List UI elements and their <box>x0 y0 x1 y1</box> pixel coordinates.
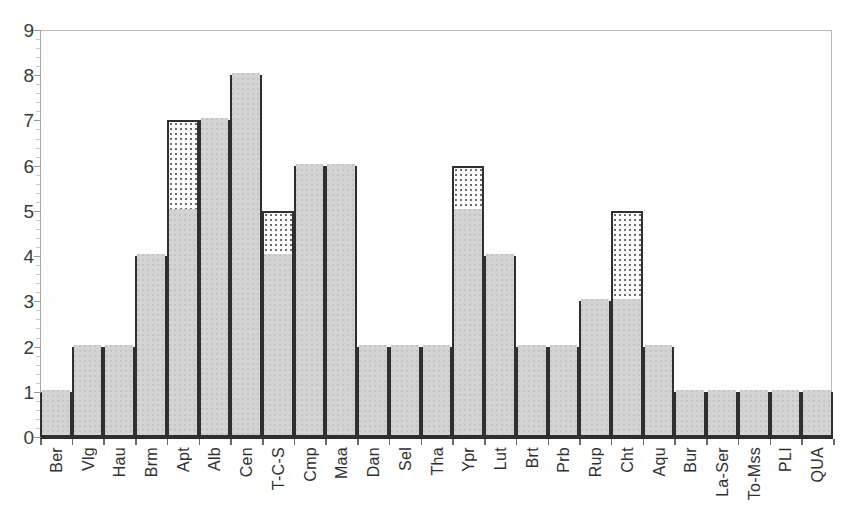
y-minor-tick <box>36 202 40 203</box>
bar-apt <box>167 120 199 437</box>
y-minor-tick <box>36 93 40 94</box>
y-minor-tick <box>36 220 40 221</box>
bar-segment-gray <box>232 73 260 435</box>
x-tick-label-cen: Cen <box>238 447 256 477</box>
bar-maa <box>325 166 357 437</box>
x-tick-mark <box>579 439 581 445</box>
y-minor-tick <box>36 238 40 239</box>
y-minor-tick <box>36 356 40 357</box>
bar-segment-dotted <box>454 168 482 213</box>
bar-segment-gray <box>296 164 324 435</box>
x-tick-label-bur: Bur <box>682 447 700 473</box>
y-minor-tick <box>36 157 40 158</box>
bar-segment-gray <box>676 390 704 435</box>
x-tick-label-ber: Ber <box>48 447 66 473</box>
x-tick-label-qua: QUA <box>809 447 827 483</box>
y-tick-mark-1 <box>34 392 41 393</box>
bar-t-c-s <box>262 211 294 437</box>
bar-brm <box>135 256 167 437</box>
y-minor-tick <box>36 292 40 293</box>
bar-segment-dotted <box>264 213 292 258</box>
bar-segment-gray <box>772 390 800 435</box>
x-tick-mark <box>738 439 740 445</box>
bar-segment-gray <box>201 118 229 435</box>
x-tick-mark <box>262 439 264 445</box>
y-tick-label-8: 8 <box>0 66 34 85</box>
x-tick-label-hau: Hau <box>111 447 129 477</box>
y-tick-label-7: 7 <box>0 111 34 130</box>
y-minor-tick <box>36 365 40 366</box>
bar-segment-gray <box>264 254 292 435</box>
bar-cen <box>230 75 262 437</box>
bar-segment-gray <box>137 254 165 435</box>
y-tick-mark-0 <box>34 437 41 438</box>
x-tick-mark <box>643 439 645 445</box>
bar-vlg <box>72 347 104 437</box>
x-tick-label-lut: Lut <box>492 447 510 470</box>
bar-pli <box>770 392 802 437</box>
histogram-chart: 0123456789 BerVlgHauBrmAptAlbCenT-C-SCmp… <box>0 0 848 525</box>
x-tick-label-tha: Tha <box>429 447 447 475</box>
y-minor-tick <box>36 184 40 185</box>
y-minor-tick <box>36 48 40 49</box>
bar-segment-gray <box>581 299 609 435</box>
x-tick-label-ypr: Ypr <box>460 447 478 472</box>
bar-segment-gray <box>613 299 641 435</box>
bar-cmp <box>294 166 326 437</box>
bar-sel <box>389 347 421 437</box>
y-minor-tick <box>36 419 40 420</box>
y-minor-tick <box>36 66 40 67</box>
x-tick-mark <box>230 439 232 445</box>
bar-segment-dotted <box>169 122 197 212</box>
x-tick-label-brt: Brt <box>524 447 542 468</box>
y-minor-tick <box>36 401 40 402</box>
y-minor-tick <box>36 111 40 112</box>
y-minor-tick <box>36 428 40 429</box>
x-tick-mark <box>103 439 105 445</box>
y-minor-tick <box>36 328 40 329</box>
x-tick-mark <box>484 439 486 445</box>
y-tick-mark-4 <box>34 256 41 257</box>
bar-segment-gray <box>74 345 102 435</box>
bar-lut <box>484 256 516 437</box>
x-tick-mark <box>548 439 550 445</box>
bar-segment-gray <box>645 345 673 435</box>
x-tick-mark <box>40 439 42 445</box>
y-tick-label-3: 3 <box>0 292 34 311</box>
bar-hau <box>103 347 135 437</box>
y-tick-label-5: 5 <box>0 201 34 220</box>
y-minor-tick <box>36 139 40 140</box>
y-minor-tick <box>36 193 40 194</box>
y-minor-tick <box>36 338 40 339</box>
bar-segment-gray <box>454 209 482 435</box>
x-tick-label-dan: Dan <box>365 447 383 477</box>
x-tick-label-to-mss: To-Mss <box>746 447 764 500</box>
bar-to-mss <box>738 392 770 437</box>
y-minor-tick <box>36 383 40 384</box>
bar-alb <box>199 120 231 437</box>
y-tick-label-9: 9 <box>0 21 34 40</box>
bar-segment-gray <box>105 345 133 435</box>
y-minor-tick <box>36 274 40 275</box>
x-tick-label-alb: Alb <box>206 447 224 471</box>
bar-segment-dotted <box>613 213 641 303</box>
y-tick-label-0: 0 <box>0 428 34 447</box>
bar-prb <box>548 347 580 437</box>
x-tick-mark <box>294 439 296 445</box>
y-minor-tick <box>36 102 40 103</box>
x-tick-label-cmp: Cmp <box>302 447 320 482</box>
bar-rup <box>579 301 611 437</box>
y-minor-tick <box>36 84 40 85</box>
y-minor-tick <box>36 39 40 40</box>
x-tick-label-aqu: Aqu <box>651 447 669 476</box>
x-tick-mark <box>706 439 708 445</box>
bar-segment-gray <box>740 390 768 435</box>
y-minor-tick <box>36 175 40 176</box>
x-tick-mark <box>389 439 391 445</box>
x-tick-mark <box>674 439 676 445</box>
x-tick-label-la-ser: La-Ser <box>714 447 732 497</box>
bar-segment-gray <box>391 345 419 435</box>
bar-segment-gray <box>518 345 546 435</box>
bars-layer <box>40 30 833 437</box>
y-tick-mark-7 <box>34 120 41 121</box>
